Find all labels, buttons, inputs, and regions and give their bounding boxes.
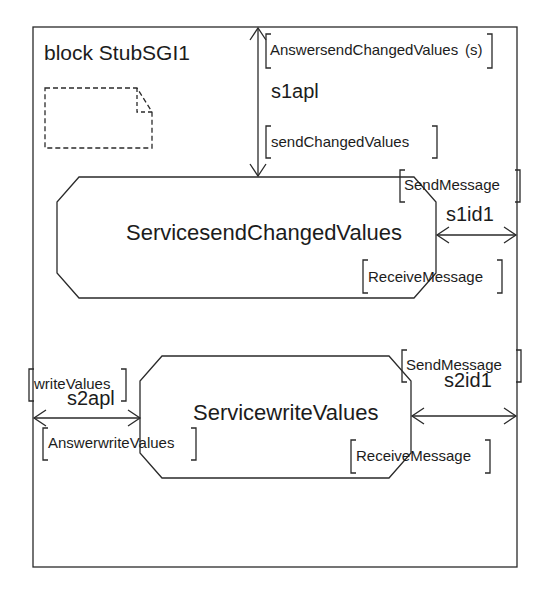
signal-label-overlay: (s) <box>465 41 483 58</box>
channel-s2apl[interactable] <box>34 410 140 426</box>
service-name: ServicesendChangedValues <box>126 220 402 245</box>
channel-label-s1apl: s1apl <box>271 80 319 102</box>
text-symbol-icon[interactable] <box>45 88 152 148</box>
signal-list-sendmessage-1[interactable]: SendMessage <box>400 170 520 202</box>
service-name: ServicewriteValues <box>193 400 378 425</box>
channel-label-s2apl: s2apl <box>67 387 115 409</box>
signal-label: sendChangedValues <box>271 133 409 150</box>
signal-list-answersendchangedvalues[interactable]: AnswersendChangedValues (s) <box>266 34 492 68</box>
signal-list-sendchangedvalues[interactable]: sendChangedValues <box>266 126 437 158</box>
channel-label-s2id1: s2id1 <box>444 369 492 391</box>
sdl-block-diagram: block StubSGI1 AnswersendChangedValues (… <box>0 0 548 591</box>
signal-label: SendMessage <box>404 176 500 193</box>
signal-list-answerwritevalues[interactable]: AnswerwriteValues <box>43 428 196 460</box>
signal-label: AnswerwriteValues <box>48 434 174 451</box>
signal-list-receivemessage-1[interactable]: ReceiveMessage <box>363 260 502 293</box>
channel-s2id1[interactable] <box>412 408 516 424</box>
signal-list-receivemessage-2[interactable]: ReceiveMessage <box>351 440 490 473</box>
channel-s1id1[interactable] <box>437 227 516 243</box>
signal-label: ReceiveMessage <box>368 268 483 285</box>
block-frame[interactable] <box>33 27 517 567</box>
channel-label-s1id1: s1id1 <box>446 203 494 225</box>
signal-label: AnswersendChangedValues <box>270 41 458 58</box>
block-title: block StubSGI1 <box>44 41 190 64</box>
signal-label: ReceiveMessage <box>356 447 471 464</box>
channel-s1apl[interactable] <box>250 28 266 176</box>
